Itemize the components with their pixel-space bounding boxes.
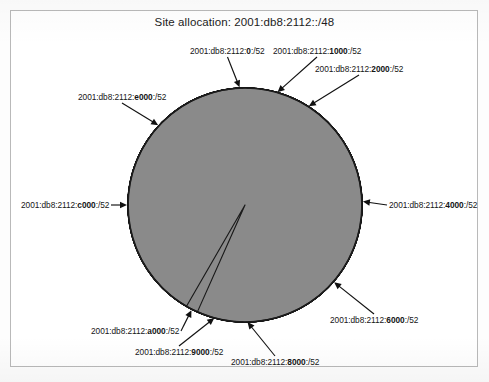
label-c000-hex: c000 — [77, 200, 95, 210]
label-0-leader-line — [228, 57, 238, 83]
label-9000-hex: 9000 — [191, 347, 209, 357]
label-9000-arrowhead — [207, 318, 215, 325]
label-6000-prefix: 2001:db8:2112: — [330, 315, 386, 325]
label-2000-suffix: :/52 — [390, 64, 404, 74]
pie-slices — [128, 88, 362, 322]
label-6000-arrowhead — [334, 282, 342, 289]
label-2000-leader-line — [313, 75, 359, 104]
label-4000-prefix: 2001:db8:2112: — [389, 200, 445, 210]
label-a000-leader-line — [181, 315, 189, 331]
label-e000: 2001:db8:2112:e000:/52 — [78, 92, 166, 102]
label-8000-hex: 8000 — [287, 357, 305, 367]
label-1000-hex: 1000 — [329, 46, 347, 56]
label-a000-suffix: :/52 — [166, 326, 180, 336]
label-9000-prefix: 2001:db8:2112: — [135, 347, 191, 357]
label-1000-suffix: :/52 — [348, 46, 362, 56]
label-c000-suffix: :/52 — [96, 200, 110, 210]
label-c000-arrowhead — [120, 202, 127, 209]
label-6000-leader-line — [338, 285, 374, 314]
label-1000: 2001:db8:2112:1000:/52 — [273, 46, 361, 56]
label-2000-hex: 2000 — [371, 64, 389, 74]
label-c000-prefix: 2001:db8:2112: — [21, 200, 77, 210]
label-a000-hex: a000 — [147, 326, 165, 336]
label-8000-arrowhead — [248, 322, 255, 330]
label-e000-prefix: 2001:db8:2112: — [78, 92, 134, 102]
label-1000-leader-line — [281, 57, 317, 89]
label-c000: 2001:db8:2112:c000:/52 — [21, 200, 109, 210]
label-0-prefix: 2001:db8:2112: — [190, 46, 246, 56]
label-4000: 2001:db8:2112:4000:/52 — [389, 200, 477, 210]
label-a000: 2001:db8:2112:a000:/52 — [91, 326, 179, 336]
label-8000-suffix: :/52 — [306, 357, 320, 367]
figure-container: Site allocation: 2001:db8:2112::/48 2001… — [0, 0, 489, 382]
label-0-suffix: :/52 — [251, 46, 265, 56]
label-0: 2001:db8:2112:0:/52 — [190, 46, 265, 56]
label-e000-suffix: :/52 — [153, 92, 167, 102]
label-4000-hex: 4000 — [445, 200, 463, 210]
label-9000-suffix: :/52 — [210, 347, 224, 357]
label-4000-suffix: :/52 — [464, 200, 478, 210]
label-4000-leader-line — [368, 202, 387, 205]
pie-slice-allocated — [128, 88, 362, 322]
label-a000-prefix: 2001:db8:2112: — [91, 326, 147, 336]
label-2000-arrowhead — [309, 100, 317, 106]
label-6000-hex: 6000 — [386, 315, 404, 325]
label-8000-leader-line — [251, 326, 275, 356]
label-6000: 2001:db8:2112:6000:/52 — [330, 315, 418, 325]
label-e000-leader-line — [122, 103, 154, 123]
label-9000: 2001:db8:2112:9000:/52 — [135, 347, 223, 357]
label-e000-arrowhead — [151, 119, 159, 125]
label-2000-prefix: 2001:db8:2112: — [315, 64, 371, 74]
label-e000-hex: e000 — [134, 92, 152, 102]
label-8000: 2001:db8:2112:8000:/52 — [231, 357, 319, 367]
label-4000-arrowhead — [363, 199, 370, 206]
label-6000-suffix: :/52 — [405, 315, 419, 325]
label-8000-prefix: 2001:db8:2112: — [231, 357, 287, 367]
label-1000-prefix: 2001:db8:2112: — [273, 46, 329, 56]
label-2000: 2001:db8:2112:2000:/52 — [315, 64, 403, 74]
